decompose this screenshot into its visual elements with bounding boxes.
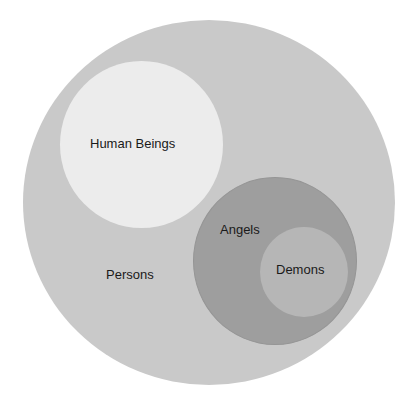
angels-label: Angels [220, 223, 260, 236]
persons-circle [23, 20, 395, 385]
human-beings-label: Human Beings [90, 137, 175, 150]
persons-label: Persons [106, 268, 154, 281]
demons-label: Demons [276, 263, 324, 276]
venn-diagram: Human Beings Angels Demons Persons [0, 0, 417, 404]
